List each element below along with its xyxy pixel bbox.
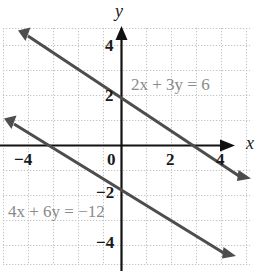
- equation-label-line-1: 2x + 3y = 6: [131, 76, 210, 93]
- y-tick-label-neg2: −2: [96, 184, 114, 201]
- y-axis-label: y: [115, 2, 123, 20]
- x-axis-label: x: [246, 134, 254, 152]
- equation-label-line-2: 4x + 6y = −12: [8, 203, 105, 220]
- graph-canvas: [0, 0, 265, 271]
- x-tick-label-neg4: −4: [14, 151, 32, 168]
- y-axis: [116, 26, 128, 271]
- x-tick-label-4: 4: [216, 151, 225, 168]
- origin-label: 0: [107, 151, 116, 168]
- y-tick-label-4: 4: [105, 37, 114, 54]
- y-tick-label-2: 2: [105, 87, 114, 104]
- y-tick-label-neg4: −4: [96, 234, 114, 251]
- coordinate-graph-figure: y x 4 2 −2 −4 −4 0 2 4 2x + 3y = 6 4x + …: [0, 0, 265, 271]
- x-tick-label-2: 2: [166, 151, 175, 168]
- graph-line-4x-6y-neg12: [4, 116, 236, 259]
